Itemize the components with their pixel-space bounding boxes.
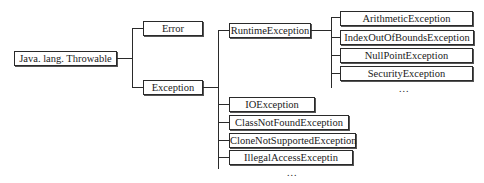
node-nullpoint-exception: NullPointException (340, 48, 473, 63)
connector-runtime-out-h (311, 30, 331, 31)
connector-io-h (218, 104, 229, 105)
node-illegalaccess-exception: IllegalAccessExceptin (229, 150, 353, 165)
node-exception: Exception (143, 80, 203, 95)
connector-arithmetic-h (331, 17, 340, 18)
node-indexoutofbounds-exception: IndexOutOfBoundsException (340, 30, 474, 45)
connector-error-h (132, 28, 143, 29)
runtime-more-ellipsis: ... (399, 84, 410, 94)
connector-exception-children-v (218, 30, 219, 169)
node-classnotfound-exception: ClassNotFoundException (229, 115, 349, 130)
connector-clonenotsupported-h (218, 140, 229, 141)
node-arithmetic-exception: ArithmeticException (340, 11, 473, 26)
connector-nullpoint-h (331, 55, 340, 56)
connector-security-h (331, 73, 340, 74)
node-io-exception: IOException (229, 97, 315, 112)
connector-exception-h (132, 87, 143, 88)
connector-indexoutofbounds-h (331, 37, 340, 38)
node-throwable: Java. lang. Throwable (14, 51, 117, 66)
connector-runtime-children-v (331, 17, 332, 88)
checked-more-ellipsis: ... (287, 168, 298, 178)
node-error: Error (143, 21, 203, 36)
node-runtime-exception: RuntimeException (229, 23, 311, 38)
connector-root-h (117, 58, 132, 59)
connector-exception-out-h (203, 87, 218, 88)
connector-classnotfound-h (218, 122, 229, 123)
node-clonenotsupported-exception: CloneNotSupportedException (229, 133, 356, 148)
connector-level1-v (132, 28, 133, 88)
connector-illegalaccess-h (218, 157, 229, 158)
connector-runtime-h (218, 30, 229, 31)
node-security-exception: SecurityException (340, 66, 473, 81)
